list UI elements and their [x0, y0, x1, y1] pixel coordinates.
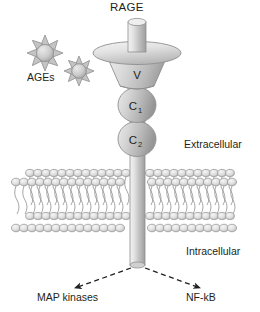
intracellular-label: Intracellular — [186, 245, 240, 257]
c2-domain-label: C — [129, 134, 137, 146]
receptor-top-stalk — [128, 18, 146, 52]
c2-domain-subscript: 2 — [138, 140, 142, 149]
v-domain-label: V — [133, 69, 141, 81]
map-kinases-label: MAP kinases — [37, 291, 98, 303]
nf-kb-label: NF-kB — [186, 291, 216, 303]
diagram-canvas: C 2 C 1 V — [0, 0, 260, 312]
c2-domain: C 2 — [118, 122, 156, 157]
receptor-name-label: RAGE — [110, 1, 144, 13]
rage-signalling-diagram: C 2 C 1 V — [0, 0, 260, 312]
c1-domain-label: C — [129, 100, 137, 112]
arrow-to-nf-kb — [145, 268, 200, 288]
age-particle-1 — [27, 35, 63, 71]
c1-domain: C 1 — [118, 88, 156, 123]
signalling-arrows — [75, 268, 200, 288]
arrow-to-map-kinases — [75, 268, 131, 288]
extracellular-label: Extracellular — [184, 138, 242, 150]
c1-domain-subscript: 1 — [138, 106, 142, 115]
lipid-bilayer — [11, 169, 236, 231]
age-particle-2 — [64, 56, 94, 86]
bilayer-upper-leaflet-front — [11, 178, 236, 214]
ligand-name-label: AGEs — [27, 71, 54, 83]
bilayer-lower-leaflet-front — [11, 224, 236, 232]
